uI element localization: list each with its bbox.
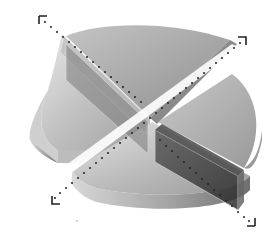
dots-bottom-left	[54, 182, 73, 199]
arrow-bottom-left	[52, 182, 73, 204]
stray-dot	[76, 220, 78, 222]
disc-diagram	[0, 0, 278, 235]
disc-diagram-svg	[0, 0, 278, 235]
